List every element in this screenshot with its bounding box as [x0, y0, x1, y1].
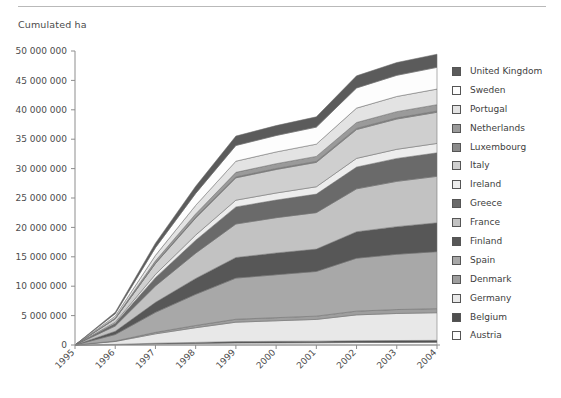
- y-axis-tick-label: 35 000 000: [15, 134, 67, 144]
- legend-swatch-icon: [452, 256, 461, 265]
- chart-legend: United KingdomSwedenPortugalNetherlandsL…: [452, 62, 560, 345]
- y-axis-tick-label: 40 000 000: [15, 105, 67, 115]
- legend-item-label: Denmark: [470, 275, 511, 284]
- legend-item-label: Finland: [470, 237, 502, 246]
- legend-swatch-icon: [452, 237, 461, 246]
- area-bands: [75, 54, 437, 345]
- y-axis-tick-label: 25 000 000: [15, 193, 67, 203]
- y-axis-tick-label: 0: [61, 340, 67, 350]
- y-axis-tick-label: 45 000 000: [15, 76, 67, 86]
- legend-swatch-icon: [452, 67, 461, 76]
- legend-item[interactable]: Greece: [452, 194, 560, 213]
- x-axis-tick-label: 2004: [415, 347, 438, 370]
- legend-swatch-icon: [452, 275, 461, 284]
- legend-swatch-icon: [452, 218, 461, 227]
- legend-item[interactable]: Netherlands: [452, 119, 560, 138]
- legend-item[interactable]: France: [452, 213, 560, 232]
- legend-item[interactable]: Finland: [452, 232, 560, 251]
- x-axis-tick-label: 2001: [294, 347, 317, 370]
- y-axis-tick-label: 5 000 000: [21, 311, 67, 321]
- legend-item-label: Portugal: [470, 105, 507, 114]
- legend-item[interactable]: Denmark: [452, 270, 560, 289]
- y-axis-tick-label: 10 000 000: [15, 281, 67, 291]
- legend-item[interactable]: United Kingdom: [452, 62, 560, 81]
- legend-item-label: Italy: [470, 161, 490, 170]
- x-axis-tick-label: 2002: [335, 347, 358, 370]
- y-axis-tick-label: 50 000 000: [15, 46, 67, 56]
- legend-item-label: Luxembourg: [470, 143, 526, 152]
- y-axis-tick-label: 20 000 000: [15, 223, 67, 233]
- legend-item[interactable]: Ireland: [452, 175, 560, 194]
- legend-item-label: Germany: [470, 294, 511, 303]
- legend-swatch-icon: [452, 180, 461, 189]
- legend-item[interactable]: Portugal: [452, 100, 560, 119]
- legend-item[interactable]: Germany: [452, 289, 560, 308]
- x-axis-tick-label: 1999: [214, 347, 237, 370]
- legend-item-label: Spain: [470, 256, 495, 265]
- y-axis-tick-label: 15 000 000: [15, 252, 67, 262]
- legend-swatch-icon: [452, 124, 461, 133]
- x-axis-tick-label: 1995: [53, 347, 76, 370]
- x-axis-tick-label: 1997: [134, 347, 157, 370]
- legend-swatch-icon: [452, 86, 461, 95]
- legend-item-label: France: [470, 218, 500, 227]
- x-axis-tick-label: 1996: [93, 347, 116, 370]
- legend-item[interactable]: Belgium: [452, 308, 560, 327]
- x-axis-tick-label: 2003: [375, 347, 398, 370]
- legend-item-label: Belgium: [470, 313, 507, 322]
- legend-item-label: Ireland: [470, 180, 501, 189]
- legend-swatch-icon: [452, 294, 461, 303]
- x-axis-tick-label: 1998: [174, 347, 197, 370]
- legend-item-label: Netherlands: [470, 124, 525, 133]
- legend-item[interactable]: Sweden: [452, 81, 560, 100]
- legend-swatch-icon: [452, 143, 461, 152]
- legend-item-label: Sweden: [470, 86, 506, 95]
- legend-swatch-icon: [452, 105, 461, 114]
- legend-item-label: United Kingdom: [470, 67, 542, 76]
- y-axis-tick-label: 30 000 000: [15, 164, 67, 174]
- legend-item[interactable]: Italy: [452, 156, 560, 175]
- legend-swatch-icon: [452, 161, 461, 170]
- legend-item-label: Greece: [470, 199, 502, 208]
- legend-item[interactable]: Austria: [452, 326, 560, 345]
- legend-swatch-icon: [452, 313, 461, 322]
- legend-item[interactable]: Luxembourg: [452, 138, 560, 157]
- x-axis-tick-label: 2000: [254, 347, 277, 370]
- legend-swatch-icon: [452, 331, 461, 340]
- legend-swatch-icon: [452, 199, 461, 208]
- legend-item-label: Austria: [470, 331, 502, 340]
- legend-item[interactable]: Spain: [452, 251, 560, 270]
